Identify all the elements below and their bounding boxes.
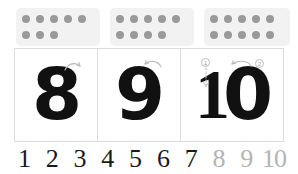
sequence-number-6: 6	[149, 145, 177, 173]
dot-row-bottom	[116, 29, 188, 41]
dot	[224, 31, 232, 39]
dot	[22, 15, 30, 23]
dot	[252, 31, 260, 39]
dot	[238, 31, 246, 39]
numeral-glyph-8: 8	[15, 58, 97, 130]
numeral-glyph-10-second-stroke: 0	[223, 58, 271, 130]
stroke-order-badge-2: 2	[255, 59, 264, 68]
stroke-order-badge-1: 1	[201, 58, 210, 67]
numeral-card-8: 8	[14, 48, 98, 142]
dot-row-bottom	[210, 29, 284, 41]
dot	[50, 31, 58, 39]
dot	[78, 15, 86, 23]
dot	[116, 15, 124, 23]
dot	[144, 31, 152, 39]
numeral-glyph-9: 9	[98, 58, 180, 130]
dot	[172, 15, 180, 23]
dot	[64, 15, 72, 23]
dot	[210, 31, 218, 39]
dot-card-9	[110, 8, 194, 46]
dot-row-top	[22, 13, 94, 25]
sequence-number-3: 3	[66, 145, 94, 173]
dot	[36, 15, 44, 23]
dot-row-top	[210, 13, 284, 25]
dot	[224, 15, 232, 23]
dot	[158, 31, 166, 39]
number-practice-worksheet: 8 9 1 0 1	[0, 0, 298, 174]
sequence-number-5: 5	[121, 145, 149, 173]
dot-card-10	[204, 8, 290, 46]
sequence-number-9: 9	[232, 145, 260, 173]
dot-card-8	[16, 8, 100, 46]
sequence-number-4: 4	[93, 145, 121, 173]
dot	[158, 15, 166, 23]
sequence-number-2: 2	[38, 145, 66, 173]
numeral-cards-row: 8 9 1 0 1	[14, 48, 286, 142]
dot	[238, 15, 246, 23]
dot	[130, 15, 138, 23]
sequence-number-1: 1	[10, 145, 38, 173]
sequence-number-10: 10	[260, 145, 288, 173]
dot	[266, 31, 274, 39]
number-sequence-row: 1 2 3 4 5 6 7 8 9 10	[0, 143, 298, 174]
dot	[144, 15, 152, 23]
dot	[22, 31, 30, 39]
dot	[210, 15, 218, 23]
sequence-number-8: 8	[205, 145, 233, 173]
dot	[252, 15, 260, 23]
numeral-card-9: 9	[97, 48, 181, 142]
dot	[36, 31, 44, 39]
dot-row-top	[116, 13, 188, 25]
dot	[116, 31, 124, 39]
dot	[50, 15, 58, 23]
dot-cards-row	[0, 0, 298, 46]
dot-row-bottom	[22, 29, 94, 41]
numeral-card-10: 1 0 1 2	[180, 48, 284, 142]
dot	[266, 15, 274, 23]
dot	[130, 31, 138, 39]
sequence-number-7: 7	[177, 145, 205, 173]
